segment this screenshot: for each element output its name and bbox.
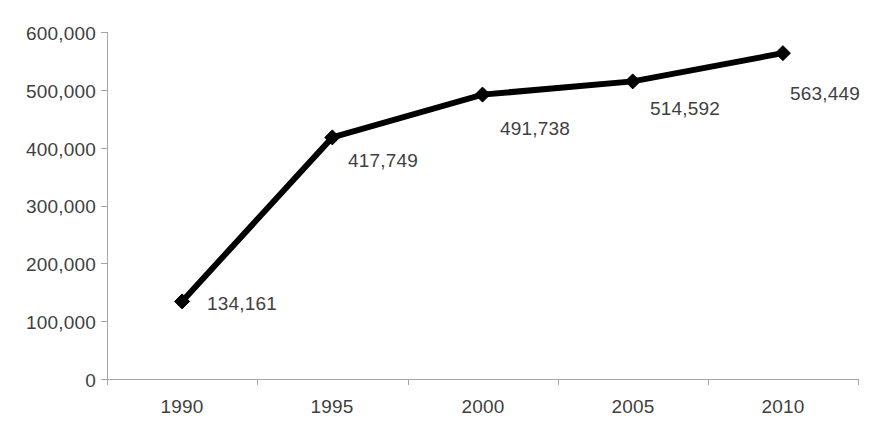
data-label-2010: 563,449 [790, 84, 860, 103]
series-markers [175, 46, 791, 309]
data-point-2010 [775, 46, 790, 61]
data-label-2005: 514,592 [650, 99, 720, 118]
data-point-2000 [475, 87, 490, 102]
data-point-2005 [625, 74, 640, 89]
data-label-2000: 491,738 [500, 119, 570, 138]
data-label-1995: 417,749 [348, 151, 418, 170]
data-label-1990: 134,161 [207, 294, 277, 313]
line-chart: 600,000 500,000 400,000 300,000 200,000 … [0, 0, 886, 441]
series-line [0, 0, 886, 441]
